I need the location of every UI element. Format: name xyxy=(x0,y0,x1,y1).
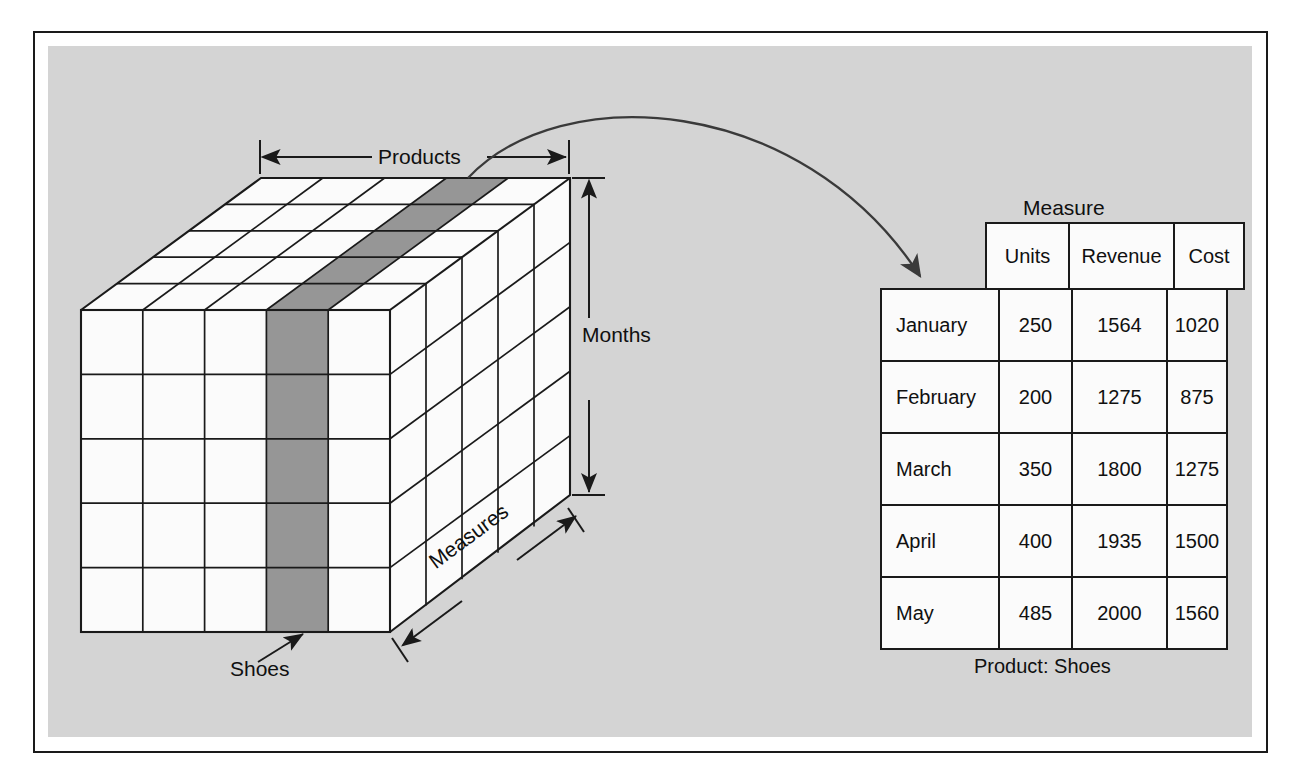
cube-front-face xyxy=(81,310,390,632)
cell-units: 350 xyxy=(999,433,1072,505)
slice-label-shoes: Shoes xyxy=(230,658,290,679)
row-header-month: March xyxy=(881,433,999,505)
cell-cost: 1500 xyxy=(1167,505,1227,577)
cell-cost: 1275 xyxy=(1167,433,1227,505)
row-header-month: January xyxy=(881,289,999,361)
table-row: Units Revenue Cost xyxy=(986,223,1244,289)
table-row: February 200 1275 875 xyxy=(881,361,1227,433)
row-header-month: February xyxy=(881,361,999,433)
column-header-revenue: Revenue xyxy=(1069,223,1174,289)
cell-revenue: 1275 xyxy=(1072,361,1167,433)
cell-cost: 875 xyxy=(1167,361,1227,433)
cell-units: 485 xyxy=(999,577,1072,649)
table-caption: Product: Shoes xyxy=(974,656,1111,676)
axis-label-months: Months xyxy=(582,324,651,345)
table-group-header: Measure xyxy=(1023,197,1105,218)
cell-revenue: 1800 xyxy=(1072,433,1167,505)
cell-cost: 1560 xyxy=(1167,577,1227,649)
column-header-cost: Cost xyxy=(1174,223,1244,289)
cell-cost: 1020 xyxy=(1167,289,1227,361)
table-row: April 400 1935 1500 xyxy=(881,505,1227,577)
cell-units: 250 xyxy=(999,289,1072,361)
table-header-row: Units Revenue Cost xyxy=(985,222,1245,290)
measure-data-table: January 250 1564 1020 February 200 1275 … xyxy=(880,288,1228,650)
cell-revenue: 1564 xyxy=(1072,289,1167,361)
figure-root: Products Months Measures Shoes Measure U… xyxy=(0,0,1301,773)
cell-units: 400 xyxy=(999,505,1072,577)
highlight-front-column xyxy=(266,310,328,632)
cube-group xyxy=(81,178,570,632)
table-row: March 350 1800 1275 xyxy=(881,433,1227,505)
cell-revenue: 1935 xyxy=(1072,505,1167,577)
row-header-month: May xyxy=(881,577,999,649)
row-header-month: April xyxy=(881,505,999,577)
table-row: May 485 2000 1560 xyxy=(881,577,1227,649)
cell-revenue: 2000 xyxy=(1072,577,1167,649)
axis-label-products: Products xyxy=(378,146,461,167)
column-header-units: Units xyxy=(986,223,1069,289)
table-row: January 250 1564 1020 xyxy=(881,289,1227,361)
cell-units: 200 xyxy=(999,361,1072,433)
